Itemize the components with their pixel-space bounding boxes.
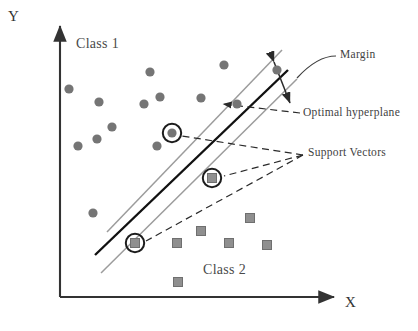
data-point-class1: [73, 141, 82, 150]
margin-leader-line: [297, 56, 336, 78]
support-vectors-label: Support Vectors: [308, 146, 386, 158]
optimal-hyperplane-line: [95, 70, 288, 255]
data-point-class1: [232, 99, 241, 108]
data-point-class2: [246, 214, 255, 223]
data-point-class1: [272, 65, 281, 74]
svm-diagram: Y X Class 1 Class 2 Margin Optimal hyper…: [0, 0, 418, 331]
data-point-class2: [263, 241, 272, 250]
data-point-class2: [208, 174, 217, 183]
data-point-class1: [64, 84, 73, 93]
support-vector-2: [203, 169, 221, 187]
data-point-class1: [145, 67, 154, 76]
data-point-class2: [174, 278, 183, 287]
data-point-class2: [225, 239, 234, 248]
margin-label: Margin: [340, 48, 375, 60]
support-vector-leader-1: [182, 136, 303, 155]
data-point-class1: [196, 93, 205, 102]
support-vector-markers: [126, 124, 221, 252]
data-point-class2: [197, 227, 206, 236]
x-axis-label: X: [345, 294, 356, 311]
data-point-class1: [107, 122, 116, 131]
data-point-class1: [92, 134, 101, 143]
optimal-hyperplane-label: Optimal hyperplane: [303, 106, 400, 118]
axis-group: [60, 26, 334, 297]
support-vector-1: [163, 124, 181, 142]
data-point-class2: [131, 239, 140, 248]
data-point-class1: [155, 92, 164, 101]
data-point-class1: [88, 208, 97, 217]
data-point-class1: [219, 60, 228, 69]
support-vector-leader-2: [224, 155, 303, 176]
data-point-class1: [139, 99, 148, 108]
y-axis-label: Y: [8, 8, 19, 25]
data-point-class1: [94, 97, 103, 106]
data-point-class1: [167, 128, 176, 137]
class-1-label: Class 1: [76, 36, 119, 52]
data-point-class2: [173, 239, 182, 248]
margin-boundary-upper-line: [107, 50, 282, 232]
support-vector-3: [126, 234, 144, 252]
class-2-label: Class 2: [203, 262, 246, 278]
data-point-class1: [152, 141, 161, 150]
